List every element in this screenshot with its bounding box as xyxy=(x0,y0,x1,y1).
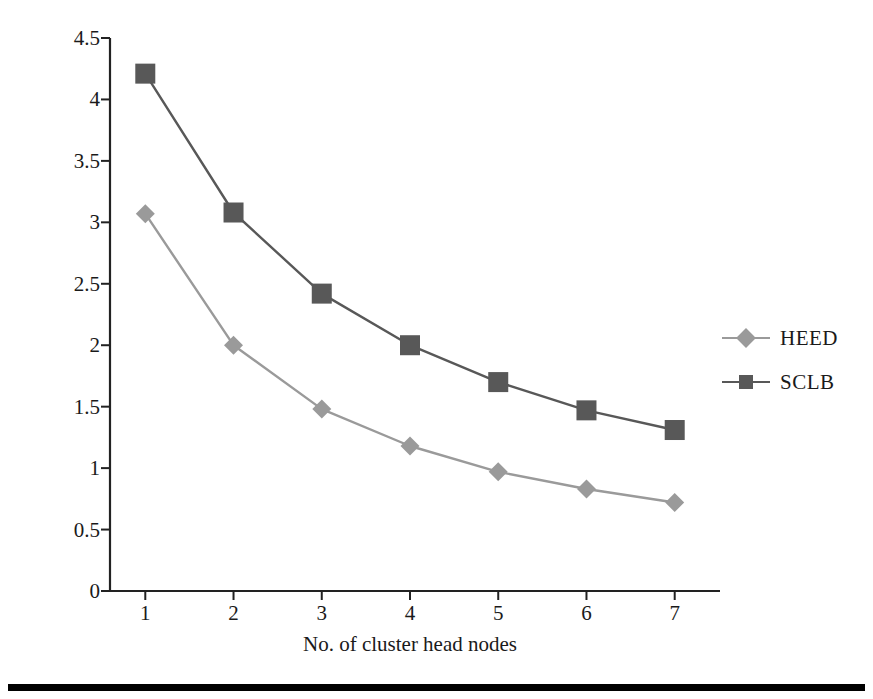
data-point-heed-1 xyxy=(136,204,155,223)
legend-entry-sclb: SCLB xyxy=(722,360,862,404)
x-axis-tick-labels: 1234567 xyxy=(110,591,710,631)
diamond-marker-icon xyxy=(736,328,756,348)
data-point-sclb-1 xyxy=(135,64,155,84)
data-point-sclb-2 xyxy=(224,203,244,223)
x-axis-tick-label: 2 xyxy=(228,603,239,624)
y-axis-tick-label: 1.5 xyxy=(74,396,100,417)
x-axis-tick-label: 3 xyxy=(317,603,328,624)
legend-swatch-sclb xyxy=(722,372,770,392)
data-point-sclb-6 xyxy=(576,400,596,420)
x-axis-tick-label: 7 xyxy=(669,603,680,624)
y-axis-tick-label: 0 xyxy=(90,581,101,602)
x-axis-tick-label: 6 xyxy=(581,603,592,624)
legend-label-sclb: SCLB xyxy=(780,370,835,395)
x-axis-title: No. of cluster head nodes xyxy=(110,632,710,657)
data-point-sclb-3 xyxy=(312,284,332,304)
x-axis-tick-label: 1 xyxy=(140,603,151,624)
y-axis-tick-label: 3 xyxy=(90,212,101,233)
x-axis-tick-label: 5 xyxy=(493,603,504,624)
y-axis-tick-label: 3.5 xyxy=(74,150,100,171)
series-layer xyxy=(135,64,684,512)
square-marker-icon xyxy=(739,375,753,389)
axis-layer xyxy=(101,38,720,600)
data-point-sclb-7 xyxy=(665,420,685,440)
data-point-heed-3 xyxy=(312,400,331,419)
data-point-heed-5 xyxy=(489,462,508,481)
y-axis-tick-label: 2 xyxy=(90,335,101,356)
data-point-heed-2 xyxy=(224,336,243,355)
data-point-heed-6 xyxy=(577,480,596,499)
y-axis-tick-label: 2.5 xyxy=(74,273,100,294)
data-point-heed-4 xyxy=(401,437,420,456)
legend-swatch-heed xyxy=(722,328,770,348)
chart-legend: HEED SCLB xyxy=(722,316,862,404)
y-axis-tick-label: 4.5 xyxy=(74,28,100,49)
series-line-heed xyxy=(145,214,674,503)
series-line-sclb xyxy=(145,74,674,430)
data-point-heed-7 xyxy=(665,493,684,512)
data-point-sclb-4 xyxy=(400,335,420,355)
y-axis-tick-label: 1 xyxy=(90,458,101,479)
y-axis-tick-label: 4 xyxy=(90,89,101,110)
y-axis-tick-label: 0.5 xyxy=(74,519,100,540)
legend-entry-heed: HEED xyxy=(722,316,862,360)
figure-container: 00.511.522.533.544.5 1234567 No. of clus… xyxy=(0,0,873,699)
data-point-sclb-5 xyxy=(488,372,508,392)
page-bottom-rule xyxy=(8,684,865,691)
x-axis-tick-label: 4 xyxy=(405,603,416,624)
legend-label-heed: HEED xyxy=(780,326,838,351)
y-axis-tick-labels: 00.511.522.533.544.5 xyxy=(40,38,100,591)
